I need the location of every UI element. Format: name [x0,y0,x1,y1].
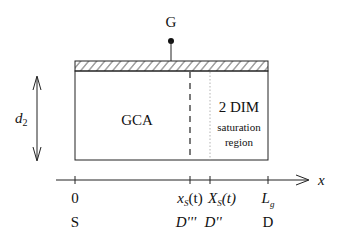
d-triple-prime-label: D''' [175,214,197,230]
d-double-prime-label: D'' [203,214,222,230]
tick-label-xs: xS(t) [176,190,202,208]
x-axis-label: x [317,172,325,188]
tick-label-Lg: Lg [261,190,275,209]
thickness-label: d2 [15,110,28,128]
2dim-region-label: 2 DIM [219,99,259,115]
gate-hatched-bar [75,61,268,71]
region-label: region [225,136,254,148]
tick-label-0: 0 [71,190,79,206]
gca-region-label: GCA [121,112,153,128]
saturation-label: saturation [217,121,261,133]
source-label: S [71,214,79,230]
gate-label: G [166,14,177,30]
mosfet-channel-diagram: G GCA 2 DIM saturation region d2 x 0 xS(… [0,0,338,243]
tick-label-Xs: XS(t) [207,190,236,208]
drain-label: D [263,214,274,230]
